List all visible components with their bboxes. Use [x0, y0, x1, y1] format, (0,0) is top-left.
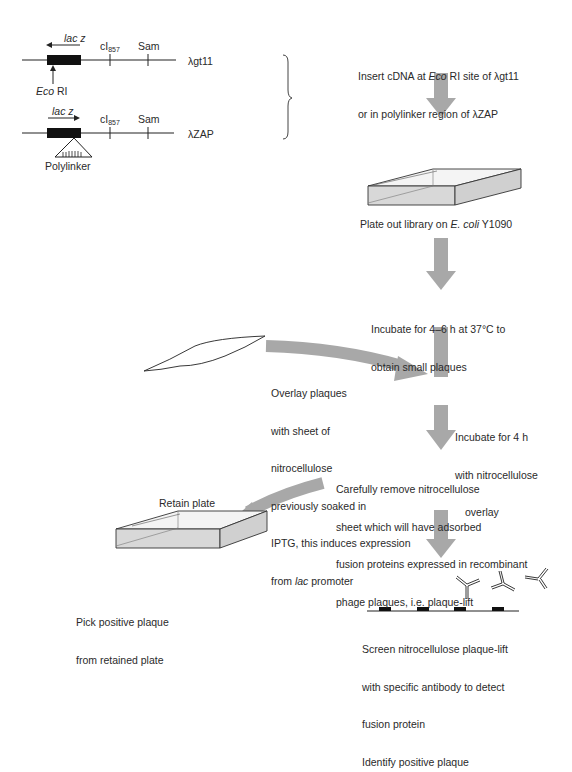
step-insert-line1: Insert cDNA at Eco RI site of λgt11 [358, 70, 519, 83]
ci-sub: 857 [108, 119, 120, 126]
brace [283, 55, 292, 139]
nitrocellulose-sheet [144, 336, 265, 371]
arrow-right-icon [74, 115, 80, 121]
text-line: Screen nitrocellulose plaque-lift [362, 643, 508, 656]
ci-sub: 857 [108, 46, 120, 53]
text-line: Pick positive plaque [76, 616, 169, 629]
step-pick-positive: Pick positive plaque from retained plate [76, 591, 169, 679]
text-line: fusion proteins expressed in recombinant [336, 558, 527, 571]
antibody-icon [525, 568, 548, 589]
petri-plate-retained [116, 511, 267, 548]
vector-name-zap: λZAP [188, 128, 214, 141]
step-insert-cdna: Insert cDNA at Eco RI site of λgt11 or i… [358, 45, 519, 133]
ci857-label-zap: cI857 [100, 113, 120, 130]
text-part: Plate out library on [360, 218, 450, 230]
text-line: fusion protein [362, 718, 508, 731]
text-line: Carefully remove nitrocellulose [336, 483, 527, 496]
text-part: from [271, 575, 295, 587]
ri-text: RI [54, 85, 67, 97]
arrow-down-icon [426, 430, 456, 450]
text-part: E. coli [450, 218, 479, 230]
text-line: Incubate for 4–6 h at 37°C to [371, 323, 505, 336]
vector-name-gt11: λgt11 [188, 55, 213, 68]
arrow-down-icon [426, 271, 456, 290]
sam-label-zap: Sam [138, 113, 160, 126]
retain-plate-label: Retain plate [159, 497, 215, 510]
petri-plate-library [368, 169, 521, 205]
ci-text: cI [100, 40, 108, 52]
lacz-label-zap: lac z [52, 105, 74, 118]
arrow-up-icon [50, 65, 56, 71]
text-line: from retained plate [76, 654, 169, 667]
arrow-left-icon [46, 42, 52, 48]
text-part: Y1090 [479, 218, 512, 230]
text-line: Incubate for 4 h [455, 431, 538, 444]
text-part: RI site of λgt11 [447, 70, 519, 82]
text-line: sheet which will have adsorbed [336, 521, 527, 534]
text-part: Eco [429, 70, 447, 82]
text-line: Overlay plaques [271, 387, 410, 400]
polylinker-label: Polylinker [45, 160, 91, 173]
text-part: Insert cDNA at [358, 70, 429, 82]
ci857-label-gt11: cI857 [100, 40, 120, 57]
lacz-label-gt11: lac z [64, 32, 86, 45]
step-screen-antibody: Screen nitrocellulose plaque-lift with s… [362, 618, 508, 772]
lacz-gene-block [47, 55, 81, 65]
step-insert-line2: or in polylinker region of λZAP [358, 108, 519, 121]
lacz-gene-block [47, 128, 81, 138]
step-remove-nitrocellulose: Carefully remove nitrocellulose sheet wh… [336, 458, 527, 621]
step-plate-out: Plate out library on E. coli Y1090 [360, 218, 512, 231]
ci-text: cI [100, 113, 108, 125]
text-line: with specific antibody to detect [362, 681, 508, 694]
sam-label-gt11: Sam [138, 40, 160, 53]
eco-text: Eco [36, 85, 54, 97]
text-line: Identify positive plaque [362, 756, 508, 769]
text-line: phage plaques, i.e. plaque-lift [336, 596, 527, 609]
polylinker-triangle [55, 138, 92, 157]
text-part: lac [295, 575, 308, 587]
ecori-label: Eco RI [36, 85, 68, 98]
text-line: with sheet of [271, 425, 410, 438]
